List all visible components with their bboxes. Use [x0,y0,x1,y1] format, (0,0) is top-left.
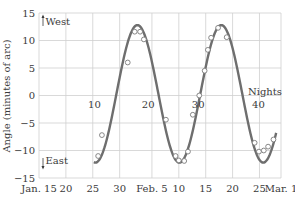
data-point [186,149,191,154]
west-indicator: West [42,15,71,28]
data-point [138,29,143,34]
west-label: West [46,16,71,27]
east-label: East [46,155,68,166]
grid [39,13,281,178]
data-point [141,37,146,42]
arrow-head-icon [42,15,45,19]
x-axis-ticks: Jan. 15202530Feb. 510152025Mar. 1 [20,183,295,194]
data-point [100,133,105,138]
night-mark: 10 [88,99,101,110]
arrow-head-icon [42,166,45,170]
data-point [125,60,130,65]
y-tick-label: 15 [22,8,35,19]
east-indicator: East [42,155,68,170]
data-point [252,140,257,145]
data-point [132,29,137,34]
data-point [257,149,262,154]
y-tick-label: −5 [20,118,35,129]
y-tick-label: 0 [29,90,35,101]
y-tick-label: −15 [14,173,35,184]
y-tick-label: 5 [29,63,35,74]
night-mark: 40 [252,99,265,110]
y-tick-label: −10 [14,145,35,156]
x-tick-label: 15 [199,183,212,194]
data-point [182,159,187,164]
x-tick-label: 30 [113,183,126,194]
data-point [96,154,101,159]
night-mark: 30 [192,99,205,110]
data-point [197,93,202,98]
data-point [205,47,210,52]
data-point [173,154,178,159]
data-point [176,158,181,163]
nights-label: Nights [248,86,282,97]
x-tick-label: 10 [172,183,185,194]
y-axis-ticks: 151050−5−10−15 [14,8,35,184]
data-point [266,144,271,149]
x-tick-label: Mar. 1 [265,183,295,194]
data-point [209,35,214,40]
night-mark: 20 [142,99,155,110]
data-point [216,25,221,30]
data-point [261,148,266,153]
data-point [202,68,207,73]
y-axis-label: Angle (minutes of arc) [1,39,12,153]
y-tick-label: 10 [22,35,35,46]
data-point [224,35,229,40]
orbit-angle-chart: 151050−5−10−15 Jan. 15202530Feb. 5101520… [0,0,295,205]
data-point [271,137,276,142]
x-tick-label: 20 [60,183,73,194]
x-tick-label: Feb. 5 [136,183,167,194]
x-tick-label: 25 [86,183,99,194]
data-point [190,112,195,117]
data-point [164,117,169,122]
x-tick-label: Jan. 15 [20,183,57,194]
x-tick-label: 20 [226,183,239,194]
